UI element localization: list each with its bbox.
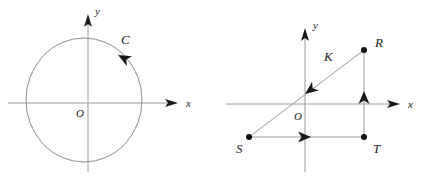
right-panel: x y O R S T K (226, 19, 413, 172)
point-dot-t (361, 134, 367, 140)
point-dot-s (246, 134, 252, 140)
right-x-axis-label: x (407, 98, 413, 110)
segment-rs-arrow-icon (302, 82, 319, 99)
left-panel: x y O C (8, 5, 191, 172)
figure-container: x y O C x (0, 0, 423, 185)
left-x-axis-label: x (185, 97, 191, 109)
left-y-axis-label: y (94, 5, 100, 17)
point-dot-r (361, 47, 367, 53)
math-figure-svg: x y O C x (0, 0, 423, 185)
circle-orientation-arrow-icon (115, 50, 132, 66)
point-label-r: R (374, 35, 383, 50)
right-y-axis-label: y (312, 19, 318, 31)
circle-label-c: C (121, 32, 130, 47)
left-origin-label: O (76, 107, 84, 119)
point-label-s: S (236, 141, 243, 156)
path-label-k: K (323, 49, 334, 64)
point-label-t: T (373, 141, 381, 156)
right-origin-label: O (294, 110, 302, 122)
